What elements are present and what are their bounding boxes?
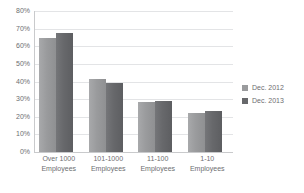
bar-dec-2012[interactable] (138, 102, 155, 152)
plot-wrapper: 80%70%60%50%40%30%20%10%0% Over 1000Empl… (0, 0, 236, 193)
bar-dec-2012[interactable] (39, 38, 56, 152)
y-axis: 80%70%60%50%40%30%20%10%0% (0, 0, 32, 193)
bars-layer (35, 11, 233, 152)
legend-item[interactable]: Dec. 2012 (242, 81, 302, 94)
y-axis-tick-label: 10% (16, 130, 30, 138)
bar-dec-2013[interactable] (106, 83, 123, 152)
bar-dec-2012[interactable] (188, 113, 205, 152)
y-axis-tick-label: 80% (16, 7, 30, 15)
y-axis-tick-label: 50% (16, 60, 30, 68)
legend-item[interactable]: Dec. 2013 (242, 94, 302, 107)
bar-group (184, 11, 234, 152)
x-axis-label-line: 1-10 (183, 154, 233, 164)
x-axis-category-label: 101-1000Employees (84, 154, 134, 174)
x-axis-label-line: Over 1000 (34, 154, 84, 164)
x-axis-label-line: Employees (84, 164, 134, 174)
bar-chart: 80%70%60%50%40%30%20%10%0% Over 1000Empl… (0, 0, 304, 193)
y-axis-tick-label: 40% (16, 78, 30, 86)
x-axis: Over 1000Employees101-1000Employees11-10… (34, 154, 232, 190)
y-axis-tick-label: 70% (16, 25, 30, 33)
bar-group (85, 11, 135, 152)
bar-dec-2012[interactable] (89, 79, 106, 152)
legend-swatch-icon (242, 98, 248, 104)
x-axis-label-line: 11-100 (133, 154, 183, 164)
y-axis-tick-label: 0% (20, 148, 30, 156)
legend-label: Dec. 2012 (252, 84, 284, 92)
y-axis-tick-label: 30% (16, 95, 30, 103)
x-axis-label-line: Employees (34, 164, 84, 174)
bar-group (35, 11, 85, 152)
x-axis-label-line: Employees (183, 164, 233, 174)
legend-label: Dec. 2013 (252, 97, 284, 105)
y-axis-tick-label: 60% (16, 42, 30, 50)
x-axis-category-label: 1-10Employees (183, 154, 233, 174)
bar-dec-2013[interactable] (205, 111, 222, 152)
chart-legend: Dec. 2012Dec. 2013 (242, 81, 302, 107)
y-axis-tick-label: 20% (16, 113, 30, 121)
x-axis-label-line: Employees (133, 164, 183, 174)
plot-area (34, 11, 233, 153)
bar-group (134, 11, 184, 152)
x-axis-category-label: Over 1000Employees (34, 154, 84, 174)
x-axis-label-line: 101-1000 (84, 154, 134, 164)
bar-dec-2013[interactable] (155, 101, 172, 152)
x-axis-category-label: 11-100Employees (133, 154, 183, 174)
legend-swatch-icon (242, 85, 248, 91)
bar-dec-2013[interactable] (56, 33, 73, 152)
